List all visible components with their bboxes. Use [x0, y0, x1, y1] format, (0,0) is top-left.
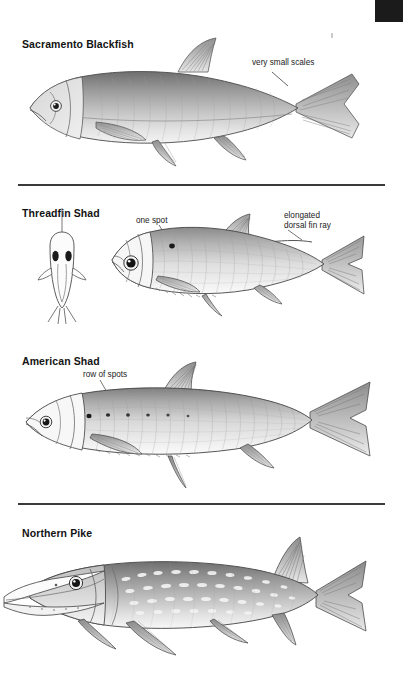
fish-illustration-northern-pike [0, 503, 403, 691]
fish-illustration-threadfin-shad [0, 184, 403, 336]
species-block-american-shad: American Shad row of spots [0, 336, 403, 503]
fish-illustration-sacramento-blackfish [0, 0, 403, 184]
fish-identification-page: Sacramento Blackfish very small scales [0, 0, 403, 691]
species-block-threadfin-shad: Threadfin Shad one spot elongated dorsal… [0, 184, 403, 336]
fish-illustration-american-shad [0, 336, 403, 503]
species-block-northern-pike: Northern Pike [0, 503, 403, 691]
species-block-sacramento-blackfish: Sacramento Blackfish very small scales [0, 0, 403, 184]
